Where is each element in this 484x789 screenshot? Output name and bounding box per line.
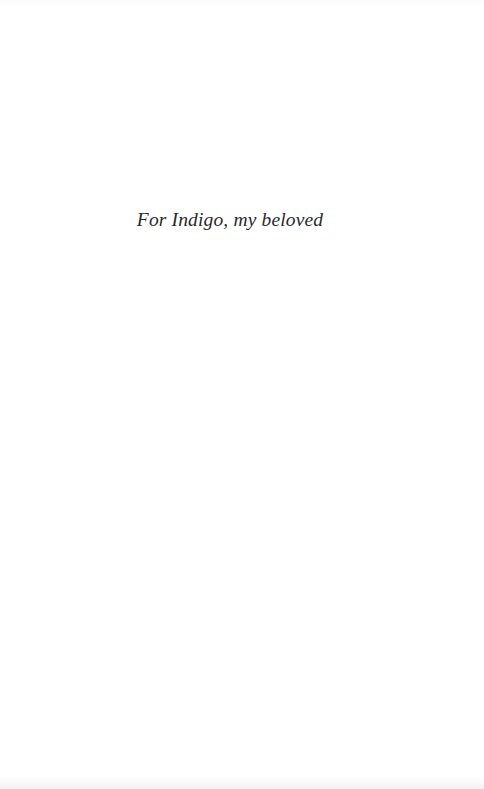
dedication-block: For Indigo, my beloved	[0, 208, 460, 232]
dedication-text: For Indigo, my beloved	[137, 208, 323, 232]
book-page: For Indigo, my beloved	[0, 0, 484, 789]
page-bottom-scan-shadow	[0, 775, 484, 789]
page-top-scan-noise	[0, 0, 484, 6]
